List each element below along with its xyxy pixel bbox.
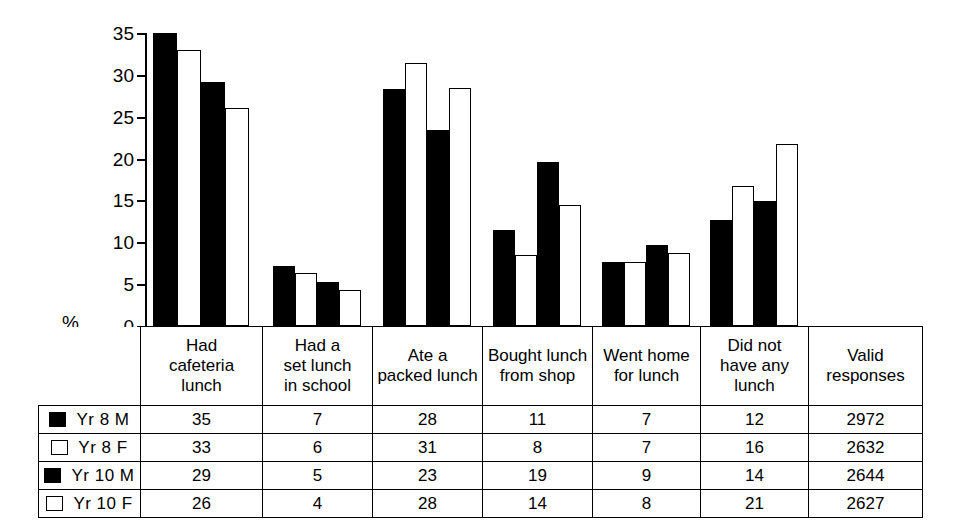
column-header-line: lunch	[143, 376, 260, 396]
bar-yr-8-f	[515, 255, 537, 326]
column-header: Ate apacked lunch	[373, 327, 483, 406]
table-cell-value: 2632	[809, 434, 923, 462]
bar-yr-8-m	[383, 89, 405, 326]
legend-swatch-solid-icon	[49, 412, 66, 427]
legend-series-label: Yr 8 F	[78, 438, 127, 458]
bar-yr-10-f	[776, 144, 798, 326]
table-row: Yr 10 M29523199142644	[39, 462, 923, 490]
bar-group	[140, 33, 262, 326]
legend-cell: Yr 10 M	[39, 462, 141, 490]
table-cell-value: 35	[141, 406, 263, 434]
column-header: Bought lunchfrom shop	[483, 327, 593, 406]
legend-swatch-hollow-icon	[46, 496, 63, 511]
table-cell-value: 9	[593, 462, 701, 490]
bar-yr-8-m	[602, 262, 624, 326]
table-cell-value: 5	[263, 462, 373, 490]
bar-group	[592, 33, 700, 326]
table-cell-value: 28	[373, 490, 483, 518]
legend-swatch-hollow-icon	[51, 440, 68, 455]
bar-yr-8-f	[732, 186, 754, 326]
table-row: Yr 10 F26428148212627	[39, 490, 923, 518]
column-header-line: packed lunch	[375, 366, 480, 386]
table-cell-value: 21	[701, 490, 809, 518]
legend-series-label: Yr 10 F	[73, 494, 132, 514]
table-cell-value: 11	[483, 406, 593, 434]
legend-series-label: Yr 10 M	[71, 466, 134, 486]
legend-cell: Yr 10 F	[39, 490, 141, 518]
column-header-line: lunch	[703, 376, 806, 396]
table-cell-value: 31	[373, 434, 483, 462]
table-cell-value: 7	[263, 406, 373, 434]
bar-yr-8-f	[177, 50, 201, 326]
bar-yr-10-f	[668, 253, 690, 326]
bar-yr-8-f	[295, 273, 317, 326]
y-tick-label-25: 25	[113, 107, 134, 126]
bar-group	[372, 33, 482, 326]
table-row: Yr 8 F3363187162632	[39, 434, 923, 462]
bar-yr-10-m	[201, 82, 225, 326]
column-header-line: set lunch	[265, 356, 370, 376]
column-header-line: in school	[265, 376, 370, 396]
bar-yr-10-f	[225, 108, 249, 326]
bar-yr-8-m	[493, 230, 515, 326]
column-header-line: have any	[703, 356, 806, 376]
bar-group	[482, 33, 592, 326]
legend-series-label: Yr 8 M	[76, 410, 129, 430]
legend-cell: Yr 8 F	[39, 434, 141, 462]
column-header: Validresponses	[809, 327, 923, 406]
column-header-line: from shop	[485, 366, 590, 386]
column-header-line: Valid	[811, 346, 920, 366]
bar-yr-10-f	[339, 290, 361, 326]
column-header-line: Did not	[703, 336, 806, 356]
table-cell-value: 33	[141, 434, 263, 462]
bar-yr-8-f	[624, 262, 646, 326]
column-header-line: Ate a	[375, 346, 480, 366]
chart-page: % 35302520151050 HadcafeterialunchHad as…	[0, 0, 964, 525]
table-cell-value: 2644	[809, 462, 923, 490]
y-tick-label-15: 15	[113, 191, 134, 210]
column-header-line: Bought lunch	[485, 346, 590, 366]
bar-yr-10-f	[449, 88, 471, 326]
table-cell-value: 8	[483, 434, 593, 462]
column-header-line: for lunch	[595, 366, 698, 386]
bar-yr-8-m	[153, 33, 177, 326]
column-header: Did nothave anylunch	[701, 327, 809, 406]
column-header-line: cafeteria	[143, 356, 260, 376]
table-cell-value: 2972	[809, 406, 923, 434]
table-cell-value: 4	[263, 490, 373, 518]
table-row: Yr 8 M35728117122972	[39, 406, 923, 434]
bars-plot-area	[147, 33, 957, 326]
table-cell-value: 29	[141, 462, 263, 490]
table-cell-value: 6	[263, 434, 373, 462]
bar-yr-8-m	[710, 220, 732, 326]
data-table-wrap: HadcafeterialunchHad aset lunchin school…	[38, 326, 922, 518]
table-cell-value: 8	[593, 490, 701, 518]
bar-yr-10-m	[646, 245, 668, 326]
table-cell-value: 7	[593, 434, 701, 462]
column-header-line: responses	[811, 366, 920, 386]
bar-yr-8-f	[405, 63, 427, 326]
y-tick-label-35: 35	[113, 24, 134, 43]
table-cell-value: 7	[593, 406, 701, 434]
table-header-row: HadcafeterialunchHad aset lunchin school…	[39, 327, 923, 406]
column-header-line: Had a	[265, 336, 370, 356]
bar-yr-10-m	[754, 201, 776, 326]
column-header-line: Went home	[595, 346, 698, 366]
y-tick-label-30: 30	[113, 65, 134, 84]
table-cell-value: 14	[483, 490, 593, 518]
bar-yr-10-m	[427, 130, 449, 326]
y-tick-label-10: 10	[113, 233, 134, 252]
legend-column-spacer	[39, 327, 141, 406]
data-table: HadcafeterialunchHad aset lunchin school…	[38, 326, 923, 518]
table-cell-value: 12	[701, 406, 809, 434]
table-cell-value: 14	[701, 462, 809, 490]
table-cell-value: 2627	[809, 490, 923, 518]
column-header: Hadcafeterialunch	[141, 327, 263, 406]
y-axis-tick-labels: 35302520151050	[98, 0, 134, 330]
bar-yr-10-m	[317, 282, 339, 326]
table-cell-value: 26	[141, 490, 263, 518]
y-tick-label-20: 20	[113, 149, 134, 168]
y-tick-label-5: 5	[123, 275, 134, 294]
bar-group	[700, 33, 808, 326]
column-header: Went homefor lunch	[593, 327, 701, 406]
